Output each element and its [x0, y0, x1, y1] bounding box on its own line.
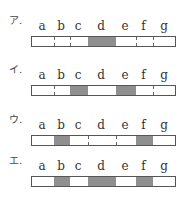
letter-f: f — [135, 159, 152, 173]
letter-d: d — [87, 68, 115, 82]
letter-f: f — [135, 118, 152, 132]
letter-e: e — [115, 68, 135, 82]
segment-a — [32, 86, 54, 95]
segment-d — [88, 86, 116, 95]
letter-c: c — [69, 68, 87, 82]
letter-b: b — [53, 159, 69, 173]
segment-letters: abcdefg — [31, 118, 176, 132]
letter-c: c — [69, 19, 87, 33]
letter-g: g — [152, 159, 176, 173]
segment-bar — [31, 135, 176, 146]
letter-d: d — [87, 19, 115, 33]
segment-c-shaded — [70, 86, 88, 95]
segment-e — [116, 37, 136, 46]
segment-f — [136, 37, 153, 46]
segment-c — [70, 37, 88, 46]
option-label: ア. — [9, 12, 22, 27]
segment-letters: abcdefg — [31, 19, 176, 33]
letter-e: e — [115, 19, 135, 33]
segment-bar — [31, 36, 176, 47]
segment-b — [54, 37, 70, 46]
segment-e-shaded — [116, 86, 136, 95]
letter-f: f — [135, 68, 152, 82]
segment-f — [136, 86, 153, 95]
option-2: イ.abcdefg — [0, 61, 191, 109]
option-label: ウ. — [9, 111, 22, 126]
segment-b-shaded — [54, 136, 70, 145]
letter-b: b — [53, 19, 69, 33]
segment-d-shaded — [88, 177, 116, 186]
segment-c — [70, 136, 88, 145]
segment-letters: abcdefg — [31, 68, 176, 82]
letter-e: e — [115, 159, 135, 173]
letter-g: g — [152, 68, 176, 82]
letter-a: a — [31, 68, 53, 82]
segment-b-shaded — [54, 177, 70, 186]
option-label: エ. — [9, 152, 22, 167]
segment-f-shaded — [136, 136, 153, 145]
segment-g — [153, 37, 177, 46]
letter-g: g — [152, 19, 176, 33]
segment-a — [32, 136, 54, 145]
segment-e — [116, 177, 136, 186]
letter-b: b — [53, 68, 69, 82]
segment-c — [70, 177, 88, 186]
letter-d: d — [87, 118, 115, 132]
segment-e — [116, 136, 136, 145]
option-label: イ. — [9, 61, 22, 76]
segment-a — [32, 177, 54, 186]
segment-letters: abcdefg — [31, 159, 176, 173]
letter-c: c — [69, 159, 87, 173]
segment-g — [153, 86, 177, 95]
letter-f: f — [135, 19, 152, 33]
segment-bar — [31, 85, 176, 96]
option-4: エ.abcdefg — [0, 152, 191, 197]
segment-g — [153, 136, 177, 145]
segment-a — [32, 37, 54, 46]
segment-d-shaded — [88, 37, 116, 46]
letter-g: g — [152, 118, 176, 132]
letter-a: a — [31, 19, 53, 33]
letter-a: a — [31, 118, 53, 132]
letter-b: b — [53, 118, 69, 132]
letter-e: e — [115, 118, 135, 132]
segment-d — [88, 136, 116, 145]
letter-a: a — [31, 159, 53, 173]
letter-c: c — [69, 118, 87, 132]
segment-f-shaded — [136, 177, 153, 186]
letter-d: d — [87, 159, 115, 173]
segment-bar — [31, 176, 176, 187]
segment-g — [153, 177, 177, 186]
segment-b — [54, 86, 70, 95]
option-1: ア.abcdefg — [0, 12, 191, 60]
